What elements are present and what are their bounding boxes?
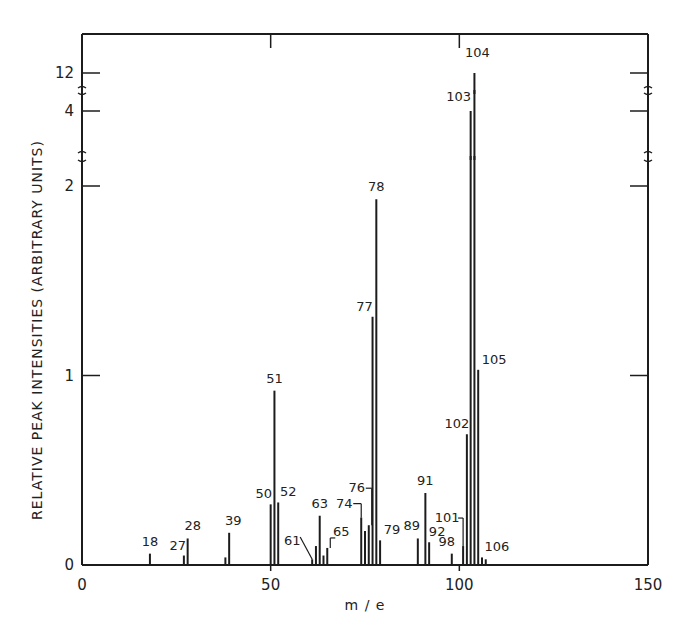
- y-axis-title: RELATIVE PEAK INTENSITIES (ARBITRARY UNI…: [29, 140, 45, 520]
- y-tick-label: 0: [64, 556, 74, 574]
- x-tick-label: 150: [634, 576, 663, 594]
- peak-bars: [150, 73, 486, 565]
- mass-spectrum-chart: 012412050100150 182728395051526163657476…: [0, 0, 688, 632]
- y-tick-label: 2: [64, 177, 74, 195]
- peak-label-18: 18: [142, 534, 159, 549]
- peak-label-103: 103: [446, 89, 471, 104]
- peak-label-79: 79: [384, 522, 401, 537]
- peak-label-51: 51: [266, 371, 283, 386]
- peak-label-50: 50: [255, 486, 272, 501]
- x-tick-label: 100: [445, 576, 474, 594]
- peak-label-76: 76: [348, 480, 365, 495]
- peak-label-39: 39: [225, 513, 242, 528]
- peak-label-74: 74: [336, 496, 353, 511]
- axis-ticks: 012412050100150: [55, 34, 662, 594]
- peak-label-104: 104: [465, 45, 490, 60]
- peak-label-105: 105: [482, 352, 507, 367]
- peak-label-52: 52: [280, 484, 297, 499]
- x-axis-title: m / e: [345, 597, 386, 613]
- y-tick-label: 4: [64, 102, 74, 120]
- peak-label-65: 65: [333, 524, 350, 539]
- peak-label-101: 101: [435, 510, 460, 525]
- y-tick-label: 12: [55, 64, 74, 82]
- peak-label-28: 28: [184, 518, 201, 533]
- peak-label-98: 98: [439, 534, 456, 549]
- peak-label-63: 63: [311, 496, 328, 511]
- peak-label-106: 106: [485, 539, 510, 554]
- peak-label-91: 91: [417, 473, 434, 488]
- peak-label-77: 77: [356, 299, 373, 314]
- peak-label-102: 102: [444, 416, 469, 431]
- peak-label-61: 61: [284, 533, 301, 548]
- peak-label-27: 27: [170, 538, 187, 553]
- x-tick-label: 0: [77, 576, 87, 594]
- leader-line: [300, 537, 312, 559]
- y-tick-label: 1: [64, 367, 74, 385]
- peak-label-89: 89: [404, 518, 421, 533]
- peak-label-78: 78: [368, 179, 385, 194]
- x-tick-label: 50: [261, 576, 280, 594]
- peak-labels: 1827283950515261636574767778798991929810…: [142, 45, 510, 554]
